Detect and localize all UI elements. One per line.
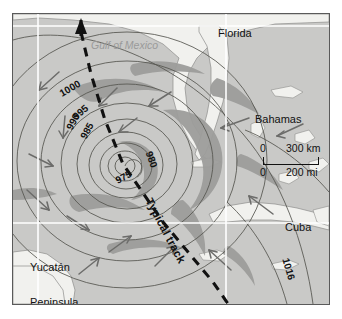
scale-km-value: 300 km	[286, 142, 320, 154]
scale-mi-value: 200 mi	[286, 166, 318, 178]
label-gulf-of-mexico: Gulf of Mexico	[91, 40, 158, 51]
label-yucatan-peninsula: Yucatán Peninsula	[30, 238, 78, 305]
scale-row-km: 0 300 km	[260, 142, 330, 157]
label-yucatan-line2: Peninsula	[30, 297, 78, 305]
hurricane-map-figure: Florida Bahamas Cuba Yucatán Peninsula G…	[0, 0, 342, 319]
map-canvas: Florida Bahamas Cuba Yucatán Peninsula G…	[12, 13, 330, 305]
label-yucatan-line1: Yucatán	[30, 262, 78, 274]
scale-bar: 0 300 km 0 200 mi	[260, 142, 330, 181]
label-florida: Florida	[218, 28, 252, 40]
scale-mi-zero: 0	[260, 166, 266, 178]
scale-km-zero: 0	[260, 142, 266, 154]
label-cuba: Cuba	[285, 222, 311, 234]
label-bahamas: Bahamas	[255, 114, 301, 126]
scale-row-mi: 0 200 mi	[260, 166, 330, 181]
scale-bar-bracket	[263, 157, 319, 165]
